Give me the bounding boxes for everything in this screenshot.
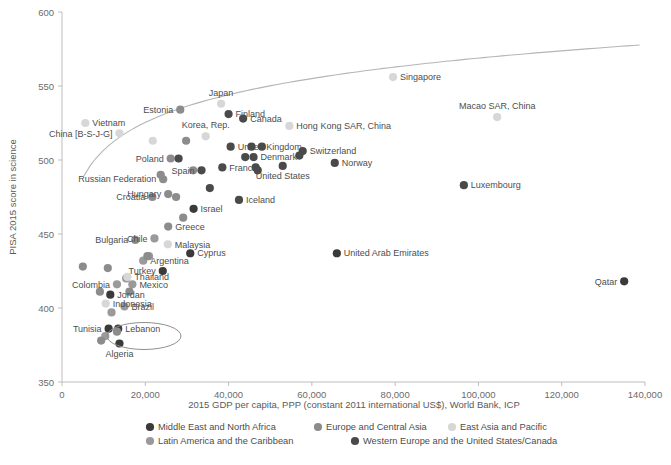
- legend-marker-western-europe-and-the-united-states-canada[interactable]: [351, 437, 359, 445]
- point-label-singapore: Singapore: [400, 72, 441, 82]
- point-label-israel: Israel: [201, 204, 223, 214]
- data-point-italy[interactable]: [206, 184, 214, 192]
- legend-label-europe-and-central-asia: Europe and Central Asia: [326, 422, 428, 432]
- data-point-united-kingdom[interactable]: [227, 143, 235, 151]
- chart-legend: Middle East and North AfricaEurope and C…: [146, 422, 558, 446]
- point-label-cyprus: Cyprus: [197, 248, 226, 258]
- data-point-hong-kong-sar-china[interactable]: [285, 122, 293, 130]
- point-label-argentina: Argentina: [150, 256, 189, 266]
- point-label-china-b-s-j-g-: China [B-S-J-G]: [49, 129, 113, 139]
- data-point-korea-rep-[interactable]: [202, 132, 210, 140]
- data-point-malaysia[interactable]: [164, 240, 172, 248]
- point-label-france: France: [229, 163, 257, 173]
- data-point-belgium[interactable]: [241, 153, 249, 161]
- point-label-switzerland: Switzerland: [310, 146, 357, 156]
- data-point-slovenia[interactable]: [182, 137, 190, 145]
- data-point-china-b-s-j-g-[interactable]: [115, 129, 123, 137]
- point-label-algeria: Algeria: [105, 349, 133, 359]
- data-point-france[interactable]: [218, 163, 226, 171]
- data-point-vietnam[interactable]: [81, 119, 89, 127]
- point-label-bulgaria: Bulgaria: [95, 235, 128, 245]
- legend-label-western-europe-and-the-united-states-canada: Western Europe and the United States/Can…: [363, 436, 558, 446]
- point-label-malaysia: Malaysia: [175, 240, 211, 250]
- data-point-latvia[interactable]: [157, 171, 165, 179]
- y-tick-label: 600: [38, 7, 54, 18]
- point-label-hong-kong-sar-china: Hong Kong SAR, China: [296, 121, 391, 131]
- point-label-iceland: Iceland: [246, 195, 275, 205]
- point-labels: QatarUnited Arab EmiratesLebanonAlgeriaT…: [49, 72, 617, 358]
- y-tick-label: 500: [38, 155, 54, 166]
- legend-label-east-asia-and-pacific: East Asia and Pacific: [460, 422, 547, 432]
- data-point-chile[interactable]: [150, 234, 158, 242]
- data-point-chinese-taipei[interactable]: [149, 137, 157, 145]
- point-label-greece: Greece: [175, 222, 205, 232]
- data-point-jordan[interactable]: [106, 291, 114, 299]
- data-point-united-arab-emirates[interactable]: [333, 249, 341, 257]
- data-point-singapore[interactable]: [389, 73, 397, 81]
- y-tick-label: 400: [38, 303, 54, 314]
- point-label-macao-sar-china: Macao SAR, China: [459, 101, 536, 111]
- point-label-indonesia: Indonesia: [113, 299, 152, 309]
- data-point-lithuania[interactable]: [172, 193, 180, 201]
- legend-marker-europe-and-central-asia[interactable]: [314, 423, 322, 431]
- y-axis-title: PISA 2015 score in science: [7, 139, 18, 255]
- point-label-norway: Norway: [342, 158, 373, 168]
- data-point-albania[interactable]: [104, 264, 112, 272]
- data-point-colombia[interactable]: [113, 280, 121, 288]
- point-label-vietnam: Vietnam: [92, 118, 125, 128]
- data-point-indonesia[interactable]: [102, 299, 110, 307]
- x-tick-label: 140,000: [628, 389, 662, 400]
- x-axis: 020,00040,00060,00080,000100,000120,0001…: [59, 382, 662, 400]
- data-point-united-states[interactable]: [279, 162, 287, 170]
- x-tick-label: 120,000: [545, 389, 579, 400]
- data-point-israel[interactable]: [189, 205, 197, 213]
- data-point-peru[interactable]: [107, 308, 115, 316]
- point-label-russian-federation: Russian Federation: [78, 174, 156, 184]
- data-point-estonia[interactable]: [176, 106, 184, 114]
- point-label-chile: Chile: [127, 234, 148, 244]
- point-label-denmark: Denmark: [261, 152, 298, 162]
- data-point-japan[interactable]: [217, 100, 225, 108]
- point-label-estonia: Estonia: [143, 105, 173, 115]
- data-point-iceland[interactable]: [235, 196, 243, 204]
- point-label-hungary: Hungary: [127, 189, 162, 199]
- data-point-luxembourg[interactable]: [460, 181, 468, 189]
- x-axis-title: 2015 GDP per capita, PPP (constant 2011 …: [188, 399, 519, 410]
- x-tick-label: 0: [59, 389, 64, 400]
- point-label-united-states: United States: [256, 171, 311, 181]
- data-point-finland[interactable]: [224, 110, 232, 118]
- y-axis: 350400450500550600: [38, 7, 62, 388]
- point-label-thailand: Thailand: [134, 272, 169, 282]
- data-point-portugal[interactable]: [175, 154, 183, 162]
- legend-marker-middle-east-and-north-africa[interactable]: [146, 423, 154, 431]
- data-point-slovak-republic[interactable]: [179, 214, 187, 222]
- data-point-poland[interactable]: [167, 154, 175, 162]
- y-tick-label: 350: [38, 377, 54, 388]
- legend-marker-latin-america-and-the-caribbean[interactable]: [146, 437, 154, 445]
- point-label-united-kingdom: United Kingdom: [238, 142, 302, 152]
- data-point-qatar[interactable]: [620, 277, 628, 285]
- data-point-macao-sar-china[interactable]: [493, 113, 501, 121]
- data-point-moldova[interactable]: [79, 262, 87, 270]
- chart-svg: 350400450500550600 020,00040,00060,00080…: [0, 0, 671, 465]
- point-label-united-arab-emirates: United Arab Emirates: [344, 248, 430, 258]
- point-label-tunisia: Tunisia: [73, 324, 102, 334]
- data-point-greece[interactable]: [164, 223, 172, 231]
- point-label-colombia: Colombia: [72, 280, 110, 290]
- legend-marker-east-asia-and-pacific[interactable]: [448, 423, 456, 431]
- data-point-macedonia[interactable]: [113, 328, 121, 336]
- data-point-kosovo[interactable]: [97, 336, 105, 344]
- point-label-japan: Japan: [209, 88, 234, 98]
- data-point-hungary[interactable]: [164, 190, 172, 198]
- point-label-luxembourg: Luxembourg: [471, 180, 521, 190]
- point-label-lebanon: Lebanon: [125, 324, 160, 334]
- data-point-norway[interactable]: [331, 159, 339, 167]
- legend-label-middle-east-and-north-africa: Middle East and North Africa: [158, 422, 277, 432]
- point-label-qatar: Qatar: [595, 277, 618, 287]
- y-tick-label: 550: [38, 81, 54, 92]
- data-point-denmark[interactable]: [249, 153, 257, 161]
- x-tick-label: 20,000: [131, 389, 160, 400]
- point-label-canada: Canada: [250, 114, 282, 124]
- legend-label-latin-america-and-the-caribbean: Latin America and the Caribbean: [158, 436, 293, 446]
- data-point-spain[interactable]: [197, 166, 205, 174]
